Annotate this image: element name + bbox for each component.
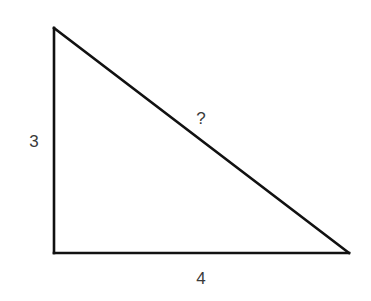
- horizontal-leg-label: 4: [196, 270, 205, 287]
- hypotenuse-label: ?: [196, 110, 205, 127]
- right-triangle-diagram: [0, 0, 371, 301]
- hypotenuse-edge: [54, 28, 349, 253]
- vertical-leg-label: 3: [29, 133, 38, 150]
